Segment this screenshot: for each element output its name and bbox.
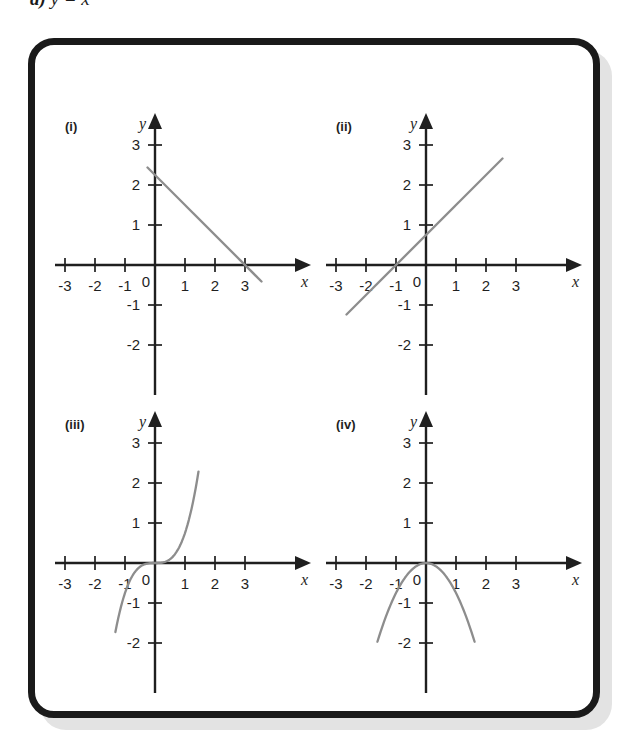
graph-i: (i) -3	[43, 103, 322, 403]
graph-iv-svg: (iv) -3 -2 -1 1 2	[314, 401, 593, 701]
x-tick-label: 1	[181, 575, 189, 592]
x-tick-label: 3	[512, 277, 520, 294]
y-axis-label: y	[408, 115, 418, 133]
graph-iv: (iv) -3 -2 -1 1 2	[314, 401, 593, 701]
x-tick-label: 1	[181, 277, 189, 294]
graph-ii-svg: (ii) -3 -2 -1 1 2	[314, 103, 593, 403]
origin-label: 0	[142, 571, 150, 588]
graph-iv-label: (iv)	[336, 417, 356, 432]
y-axis-arrow-icon	[419, 113, 433, 129]
y-tick-label: 3	[403, 136, 411, 153]
x-axis-arrow-icon	[566, 556, 582, 570]
y-tick-label: -2	[398, 336, 411, 353]
y-tick-label: 1	[403, 514, 411, 531]
y-axis-arrow-icon	[419, 411, 433, 427]
x-tick-label: 3	[512, 575, 520, 592]
x-tick-label: 2	[482, 575, 490, 592]
heading-clip: d) y = x	[0, 0, 626, 16]
x-tick-label: 2	[211, 277, 219, 294]
graph-ii: (ii) -3 -2 -1 1 2	[314, 103, 593, 403]
y-axis-label: y	[137, 115, 147, 133]
x-axis-label: x	[571, 273, 579, 290]
x-tick-label: 1	[452, 277, 460, 294]
x-tick-label: -3	[329, 575, 342, 592]
y-tick-label: 3	[403, 434, 411, 451]
y-tick-label: 3	[132, 136, 140, 153]
y-tick-label: 3	[132, 434, 140, 451]
y-tick-label: 2	[132, 176, 140, 193]
x-tick-label: 2	[482, 277, 490, 294]
y-axis-label: y	[137, 413, 147, 431]
x-tick-label: 3	[241, 575, 249, 592]
graph-i-svg: (i) -3	[43, 103, 322, 403]
graph-iii: (iii) -3 -2 -1 1 2	[43, 401, 322, 701]
graph-panel: (i) -3	[28, 38, 600, 718]
y-tick-label: -2	[398, 634, 411, 651]
x-tick-label: -2	[359, 575, 372, 592]
y-axis-arrow-icon	[148, 113, 162, 129]
x-axis-arrow-icon	[295, 556, 311, 570]
question-equation: y = x	[51, 0, 90, 9]
y-axis-arrow-icon	[148, 411, 162, 427]
x-axis-label: x	[300, 571, 308, 588]
y-tick-label: 2	[403, 474, 411, 491]
x-tick-label: -1	[389, 277, 402, 294]
graph-ii-label: (ii)	[336, 119, 352, 134]
x-tick-label: 3	[241, 277, 249, 294]
x-tick-label: -3	[58, 277, 71, 294]
y-tick-label: 2	[132, 474, 140, 491]
x-tick-label: -2	[88, 575, 101, 592]
x-axis-label: x	[300, 273, 308, 290]
x-tick-label: -2	[88, 277, 101, 294]
y-tick-label: 1	[132, 514, 140, 531]
x-tick-label: 2	[211, 575, 219, 592]
x-tick-label: -1	[118, 277, 131, 294]
y-tick-label: -1	[127, 594, 140, 611]
question-heading: d) y = x	[30, 0, 90, 10]
origin-label: 0	[142, 273, 150, 290]
y-tick-label: 1	[132, 216, 140, 233]
question-part-label: d)	[30, 0, 46, 9]
x-axis-arrow-icon	[295, 258, 311, 272]
x-axis-arrow-icon	[566, 258, 582, 272]
y-tick-label: -2	[127, 336, 140, 353]
origin-label: 0	[413, 273, 421, 290]
y-tick-label: 2	[403, 176, 411, 193]
graph-iii-label: (iii)	[65, 417, 85, 432]
y-tick-label: -2	[127, 634, 140, 651]
x-axis-label: x	[571, 571, 579, 588]
x-tick-label: -3	[329, 277, 342, 294]
y-tick-label: -1	[127, 296, 140, 313]
graph-grid: (i) -3	[35, 45, 593, 711]
y-tick-label: 1	[403, 216, 411, 233]
x-tick-label: -3	[58, 575, 71, 592]
origin-label: 0	[413, 571, 421, 588]
y-axis-label: y	[408, 413, 418, 431]
line-plot	[347, 159, 503, 315]
y-tick-label: -1	[398, 296, 411, 313]
graph-iii-svg: (iii) -3 -2 -1 1 2	[43, 401, 322, 701]
y-tick-label: -1	[398, 594, 411, 611]
graph-i-label: (i)	[65, 119, 77, 134]
